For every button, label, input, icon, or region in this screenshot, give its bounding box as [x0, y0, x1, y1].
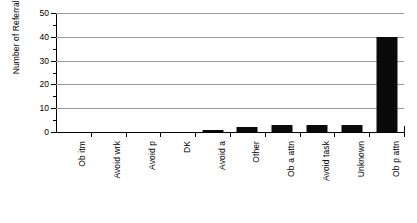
bar-slot	[265, 13, 300, 132]
x-tick	[230, 132, 231, 137]
bar-slot	[56, 13, 91, 132]
x-tick	[334, 132, 335, 137]
y-tick-label: 40	[27, 32, 49, 42]
x-tick	[91, 132, 92, 137]
bar-slot	[160, 13, 195, 132]
bar-series	[56, 13, 404, 132]
bar-slot	[126, 13, 161, 132]
y-tick-label: 50	[27, 8, 49, 18]
x-tick-label: Avoid a	[217, 141, 227, 170]
plot-area: 01020304050	[56, 13, 404, 132]
x-tick	[300, 132, 301, 137]
x-tick	[160, 132, 161, 137]
bar-slot	[334, 13, 369, 132]
x-tick-label: Unknown	[356, 141, 366, 177]
y-tick-label: 20	[27, 79, 49, 89]
bar	[237, 127, 258, 132]
x-tick	[404, 132, 405, 137]
bar-slot	[369, 13, 404, 132]
y-tick-label: 10	[27, 103, 49, 113]
x-tick-label: Ob itm	[77, 141, 87, 167]
x-tick-label: Avoid p	[147, 141, 157, 170]
bar	[341, 125, 362, 132]
x-tick	[126, 132, 127, 137]
x-tick-label: Ob p attn	[391, 141, 401, 177]
x-tick-label: Other	[251, 141, 261, 163]
bar-slot	[300, 13, 335, 132]
bar	[202, 130, 223, 132]
bar	[272, 125, 293, 132]
x-tick-label: DK	[182, 141, 192, 153]
x-tick	[265, 132, 266, 137]
bar-slot	[230, 13, 265, 132]
bar-chart: Number of Referrals 01020304050 Ob itmAv…	[0, 0, 417, 223]
x-tick-label: Avoid wrk	[112, 141, 122, 179]
y-tick-label: 0	[27, 127, 49, 137]
x-tick	[195, 132, 196, 137]
bar	[376, 37, 397, 132]
x-tick-label: Avoid task	[321, 141, 331, 181]
x-tick-label: Ob a attn	[286, 141, 296, 177]
bar-slot	[195, 13, 230, 132]
bar-slot	[91, 13, 126, 132]
bar	[306, 125, 327, 132]
y-tick-label: 30	[27, 56, 49, 66]
x-tick	[369, 132, 370, 137]
y-tick-major	[51, 132, 56, 133]
y-axis-title: Number of Referrals	[11, 0, 21, 95]
